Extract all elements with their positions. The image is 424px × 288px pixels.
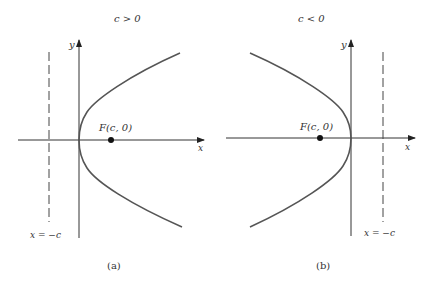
panel-b: c < 0 y x F(c, 0) x = −c (b) <box>226 13 415 271</box>
condition-label: c < 0 <box>298 13 325 24</box>
x-axis-label: x <box>405 142 410 152</box>
directrix-label: x = −c <box>30 230 61 240</box>
focus-point <box>317 135 323 141</box>
y-axis-label: y <box>340 39 347 50</box>
parabola-diagram: c > 0 y x F(c, 0) x = −c (a) c < 0 y x F… <box>0 0 424 288</box>
x-axis-label: x <box>198 143 203 153</box>
y-axis-label: y <box>68 39 75 50</box>
parabola-curve <box>250 53 351 227</box>
condition-label: c > 0 <box>114 13 141 24</box>
directrix-label: x = −c <box>364 228 395 238</box>
focus-point <box>108 137 114 143</box>
panel-a: c > 0 y x F(c, 0) x = −c (a) <box>18 13 204 271</box>
diagram-svg: c > 0 y x F(c, 0) x = −c (a) c < 0 y x F… <box>0 0 424 288</box>
focus-label: F(c, 0) <box>299 121 333 132</box>
caption: (a) <box>107 260 121 271</box>
caption: (b) <box>316 260 330 271</box>
focus-label: F(c, 0) <box>98 122 132 133</box>
